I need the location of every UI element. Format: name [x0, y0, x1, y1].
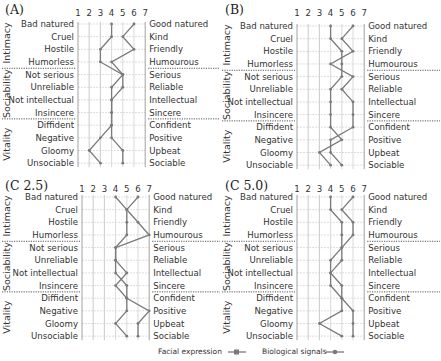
left-adjective: Not serious [25, 70, 74, 80]
left-adjective: Humorless [28, 57, 74, 67]
right-adjective: Sincere [368, 281, 400, 291]
left-adjective: Negative [254, 135, 293, 145]
scale-tick: 5 [124, 184, 129, 194]
right-adjective: Positive [368, 135, 401, 145]
left-adjective: Gloomy [260, 319, 293, 329]
right-adjective: Humourous [368, 230, 418, 240]
left-adjective: Not serious [244, 243, 293, 253]
scale-tick: 6 [350, 184, 355, 194]
semantic-differential-charts: (A)1234567Bad naturedCruelHostileHumorle… [0, 0, 441, 361]
left-adjective: Not serious [244, 72, 293, 82]
right-adjective: Intellectual [149, 95, 197, 105]
group-label: Sociability [1, 69, 12, 118]
left-adjective: Gloomy [260, 148, 293, 158]
left-adjective: Negative [254, 306, 293, 316]
right-adjective: Upbeat [153, 319, 185, 329]
left-adjective: Hostile [48, 217, 78, 227]
left-adjective: Not serious [29, 243, 78, 253]
scale-tick: 5 [339, 8, 344, 18]
left-adjective: Not intellectual [12, 268, 78, 278]
group-label: Vitality [221, 129, 232, 162]
left-adjective: Negative [35, 133, 74, 143]
left-adjective: Bad natured [25, 192, 78, 202]
right-adjective: Kind [368, 205, 387, 215]
right-adjective: Humourous [153, 230, 203, 240]
right-adjective: Intellectual [153, 268, 201, 278]
scale-tick: 5 [120, 8, 125, 18]
scale-tick: 1 [75, 8, 80, 18]
left-adjective: Unreliable [34, 255, 78, 265]
right-adjective: Kind [149, 32, 168, 42]
left-adjective: Diffident [256, 293, 294, 303]
right-adjective: Reliable [149, 82, 183, 92]
right-adjective: Positive [368, 306, 401, 316]
right-adjective: Sincere [149, 108, 181, 118]
scale-tick: 4 [328, 184, 333, 194]
left-adjective: Gloomy [41, 146, 74, 156]
left-adjective: Unreliable [249, 84, 293, 94]
right-adjective: Kind [153, 205, 172, 215]
right-adjective: Confident [368, 122, 410, 132]
scale-tick: 1 [294, 8, 299, 18]
right-adjective: Upbeat [368, 319, 400, 329]
left-adjective: Diffident [37, 120, 75, 130]
left-adjective: Unreliable [249, 255, 293, 265]
group-label: Sociability [1, 242, 12, 291]
scale-tick: 1 [79, 184, 84, 194]
right-adjective: Serious [368, 243, 400, 253]
right-adjective: Reliable [368, 84, 402, 94]
right-adjective: Good natured [153, 192, 212, 202]
left-adjective: Hostile [263, 46, 293, 56]
right-adjective: Sociable [149, 158, 185, 168]
scale-tick: 2 [305, 184, 310, 194]
scale-tick: 1 [294, 184, 299, 194]
left-adjective: Insincere [39, 281, 78, 291]
right-adjective: Friendly [149, 44, 183, 54]
right-adjective: Serious [368, 72, 400, 82]
panel-title: (A) [5, 2, 24, 17]
left-adjective: Hostile [44, 44, 74, 54]
group-label: Vitality [1, 127, 12, 160]
left-adjective: Cruel [55, 205, 78, 215]
left-adjective: Not intellectual [8, 95, 74, 105]
scale-tick: 7 [146, 184, 151, 194]
right-adjective: Confident [153, 293, 195, 303]
right-adjective: Good natured [368, 192, 427, 202]
left-adjective: Humorless [247, 230, 293, 240]
scale-tick: 4 [113, 184, 118, 194]
left-adjective: Diffident [256, 122, 294, 132]
right-adjective: Good natured [149, 19, 208, 29]
left-adjective: Cruel [51, 32, 74, 42]
panel-title: (C 5.0) [225, 178, 268, 193]
scale-tick: 2 [305, 8, 310, 18]
group-label: Vitality [1, 300, 12, 333]
right-adjective: Intellectual [368, 97, 416, 107]
panel-title: (C 2.5) [5, 178, 48, 193]
right-adjective: Positive [153, 306, 186, 316]
scale-tick: 2 [86, 8, 91, 18]
right-adjective: Humourous [149, 57, 199, 67]
scale-tick: 5 [339, 184, 344, 194]
legend-bio-label: Biological signals [262, 347, 327, 356]
left-adjective: Diffident [41, 293, 79, 303]
right-adjective: Upbeat [368, 148, 400, 158]
left-adjective: Bad natured [240, 192, 293, 202]
right-adjective: Kind [368, 34, 387, 44]
left-adjective: Bad natured [21, 19, 74, 29]
right-adjective: Positive [149, 133, 182, 143]
left-adjective: Gloomy [45, 319, 78, 329]
left-adjective: Insincere [35, 108, 74, 118]
scale-tick: 4 [109, 8, 114, 18]
group-label: Sociability [221, 242, 232, 291]
group-label: Vitality [221, 300, 232, 333]
left-adjective: Unsociable [27, 158, 74, 168]
group-label: Intimacy [1, 22, 12, 63]
left-adjective: Unreliable [30, 82, 74, 92]
scale-tick: 4 [328, 8, 333, 18]
right-adjective: Sincere [153, 281, 185, 291]
right-adjective: Good natured [368, 21, 427, 31]
right-adjective: Sociable [368, 160, 404, 170]
scale-tick: 7 [361, 8, 366, 18]
right-adjective: Confident [149, 120, 191, 130]
left-adjective: Hostile [263, 217, 293, 227]
